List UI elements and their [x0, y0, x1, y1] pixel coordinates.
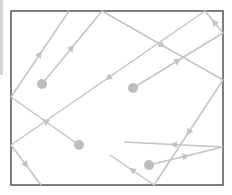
arrow-head-icon — [182, 153, 190, 160]
source-dot — [74, 140, 84, 150]
arrow-head-icon — [170, 141, 177, 148]
arrow-head-icon — [21, 160, 28, 168]
arrow-head-icon — [187, 128, 194, 136]
source-dot — [37, 79, 47, 89]
arrow-head-icon — [35, 51, 42, 59]
source-dot — [128, 83, 138, 93]
ray-diagram — [0, 0, 232, 195]
arrow-head-icon — [129, 168, 137, 175]
source-dot — [144, 160, 154, 170]
arrow-head-icon — [105, 73, 113, 80]
